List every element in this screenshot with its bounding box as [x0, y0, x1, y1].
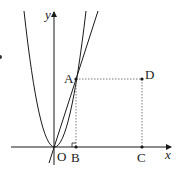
y-axis-label: y [43, 7, 51, 22]
label-C: C [137, 150, 146, 165]
point-D [140, 77, 143, 80]
label-A: A [64, 71, 74, 86]
origin-label: O [57, 149, 66, 164]
point-A [74, 77, 77, 80]
x-axis-label: x [164, 147, 171, 162]
coordinate-diagram: y x O A B C D [0, 0, 183, 179]
label-D: D [145, 67, 154, 82]
label-B: B [71, 150, 80, 165]
point-C [140, 145, 143, 148]
line-through-origin [49, 11, 98, 163]
edge-mark [0, 55, 2, 59]
point-B [74, 145, 77, 148]
